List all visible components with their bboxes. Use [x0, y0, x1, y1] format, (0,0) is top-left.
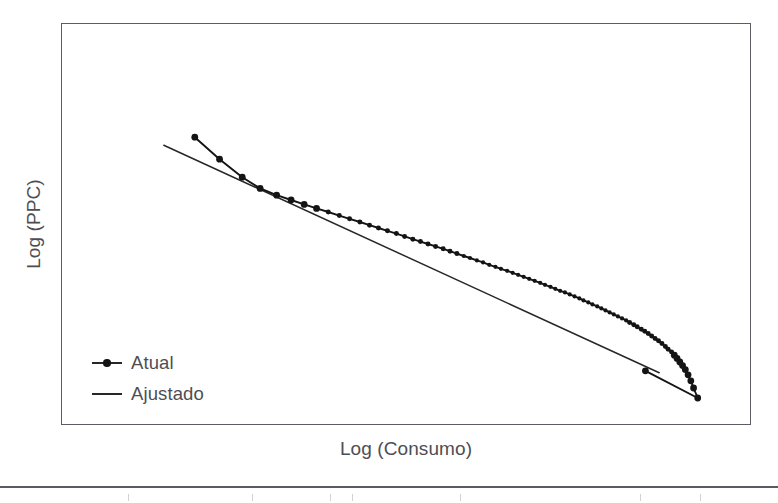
data-point [687, 377, 694, 384]
x-axis-title: Log (Consumo) [61, 438, 751, 460]
data-point [418, 239, 423, 244]
data-point [538, 281, 542, 285]
data-point [595, 304, 599, 308]
data-point [376, 226, 381, 231]
data-point [462, 254, 466, 258]
data-point [590, 302, 594, 306]
scan-artifact-mark [252, 494, 253, 501]
data-point [493, 265, 497, 269]
data-point [642, 367, 649, 374]
data-point [616, 314, 620, 318]
data-point [527, 277, 531, 281]
data-point [586, 300, 590, 304]
data-point [612, 312, 616, 316]
data-point [577, 296, 581, 300]
data-point [608, 310, 612, 314]
data-point [326, 210, 331, 215]
series-atual [191, 134, 701, 402]
data-point [288, 197, 295, 204]
page-divider-rule [0, 486, 778, 488]
scan-artifact-mark [640, 494, 641, 501]
data-point [468, 256, 472, 260]
data-point [257, 185, 264, 192]
data-point [685, 371, 692, 378]
data-point [522, 275, 526, 279]
data-point [402, 234, 407, 239]
data-point [313, 205, 320, 212]
data-point [603, 308, 607, 312]
data-point [553, 287, 557, 291]
data-point [475, 258, 479, 262]
scan-artifact-mark [128, 494, 129, 501]
data-point [599, 306, 603, 310]
scan-artifact-mark [700, 494, 701, 501]
legend-marker-line-icon [92, 356, 122, 370]
data-point [301, 201, 308, 208]
data-point [441, 246, 446, 251]
scan-artifact-row [0, 492, 778, 503]
data-point [572, 294, 576, 298]
data-point [499, 267, 503, 271]
data-point [347, 216, 352, 221]
data-point [581, 298, 585, 302]
data-point [394, 231, 399, 236]
data-point [239, 174, 246, 181]
data-point [558, 289, 562, 293]
data-point [481, 260, 485, 264]
actual-markers [191, 134, 701, 402]
legend-item-ajustado: Ajustado [92, 383, 204, 405]
figure-container: Log (PPC) Log (Consumo) Atual Ajustado [0, 0, 778, 503]
legend-line-icon [92, 387, 122, 401]
legend-label-atual: Atual [131, 352, 174, 374]
series-ajustado [164, 145, 659, 373]
chart-legend: Atual Ajustado [92, 352, 204, 405]
actual-line [195, 137, 698, 398]
scan-artifact-mark [460, 494, 461, 501]
data-point [548, 285, 552, 289]
data-point [367, 223, 372, 228]
data-point [426, 242, 431, 247]
data-point [505, 269, 509, 273]
scan-artifact-mark [330, 494, 331, 501]
legend-label-ajustado: Ajustado [131, 383, 204, 405]
data-point [191, 134, 198, 141]
y-axis-title: Log (PPC) [14, 23, 54, 425]
fitted-line [164, 145, 659, 373]
data-point [487, 263, 491, 267]
data-point [543, 283, 547, 287]
data-point [433, 244, 438, 249]
data-point [454, 251, 459, 256]
data-point [620, 316, 624, 320]
data-point [690, 385, 697, 392]
data-point [273, 192, 280, 199]
data-point [568, 292, 572, 296]
data-point [516, 273, 520, 277]
legend-item-atual: Atual [92, 352, 204, 374]
data-point [410, 237, 415, 242]
data-point [511, 271, 515, 275]
scan-artifact-mark [352, 494, 353, 501]
data-point [448, 249, 453, 254]
data-point [216, 156, 223, 163]
data-point [694, 395, 701, 402]
data-point [337, 213, 342, 218]
data-point [563, 290, 567, 294]
data-point [533, 279, 537, 283]
data-point [357, 220, 362, 225]
data-point [385, 228, 390, 233]
